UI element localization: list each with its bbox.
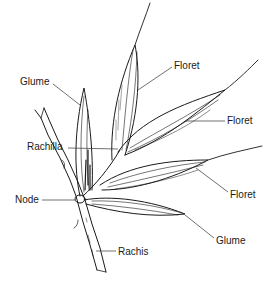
label-glume-upper: Glume: [20, 76, 49, 88]
leader-floret-top: [138, 67, 172, 90]
label-glume-lower: Glume: [216, 235, 245, 247]
leader-glume-lower: [185, 215, 214, 238]
leader-glume-upper: [53, 84, 80, 105]
label-rachilla: Rachilla: [27, 141, 63, 153]
label-floret-right: Floret: [227, 115, 253, 127]
leader-lines: [42, 67, 228, 251]
upper-glume: [76, 88, 92, 196]
right-floret: [118, 60, 258, 155]
lower-glume: [84, 198, 185, 215]
label-node: Node: [15, 194, 39, 206]
label-floret-lower: Floret: [230, 189, 256, 201]
lower-floret: [100, 146, 262, 190]
leader-floret-lower: [196, 168, 228, 192]
rachis-stem: [35, 108, 106, 272]
label-floret-top: Floret: [174, 60, 200, 72]
label-rachis: Rachis: [118, 246, 149, 258]
